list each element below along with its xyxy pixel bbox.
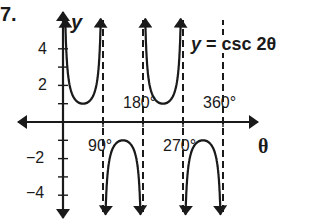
y-tick-label-neg2: −2 — [26, 150, 44, 166]
y-tick-label-neg4: −4 — [26, 185, 44, 201]
y-axis-label: y — [71, 12, 82, 32]
x-tick-label-360: 360° — [203, 95, 236, 111]
y-tick-label-2: 2 — [38, 77, 47, 93]
x-tick-label-180: 180° — [123, 95, 156, 111]
x-axis-label: θ — [258, 136, 268, 156]
x-tick-label-90: 90° — [88, 138, 112, 154]
x-tick-label-270: 270° — [163, 138, 196, 154]
equation-var: y — [191, 34, 201, 54]
y-tick-label-4: 4 — [38, 41, 47, 57]
equation-annotation: y = csc 2θ — [190, 35, 277, 53]
equation-rest: = csc 2θ — [201, 34, 276, 54]
